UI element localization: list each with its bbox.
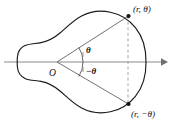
radius-lines-group	[57, 16, 129, 104]
radius-line-upper	[57, 16, 129, 62]
point-marker-upper	[126, 14, 130, 18]
origin-label: O	[49, 67, 56, 78]
polar-axis-arrowhead	[161, 58, 168, 66]
angle-arc-lower	[79, 62, 83, 77]
angle-arc-upper	[79, 48, 83, 63]
point-label-upper: (r, θ)	[133, 4, 151, 14]
angle-label-lower: −θ	[86, 66, 96, 76]
angle-label-upper: θ	[86, 45, 91, 55]
point-label-lower: (r, −θ)	[131, 109, 155, 119]
polar-coordinate-figure: (r, θ) (r, −θ) O θ −θ	[0, 0, 171, 123]
point-marker-lower	[126, 102, 130, 106]
polar-figure-canvas: (r, θ) (r, −θ) O θ −θ	[0, 0, 171, 123]
polar-axis-group	[4, 58, 168, 66]
